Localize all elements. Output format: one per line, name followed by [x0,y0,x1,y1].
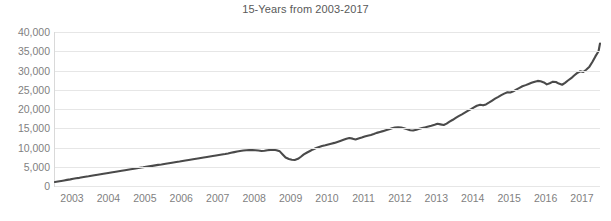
x-tick-label: 2010 [315,193,338,204]
x-tick-label: 2015 [497,193,520,204]
x-tick-label: 2012 [388,193,411,204]
x-tick-label: 2007 [206,193,229,204]
x-axis-labels: 2003200420052006200720082009201020112012… [0,0,611,221]
x-tick-label: 2003 [60,193,83,204]
x-tick-label: 2006 [170,193,193,204]
x-tick-label: 2016 [534,193,557,204]
x-tick-label: 2011 [352,193,375,204]
x-tick-label: 2013 [425,193,448,204]
x-tick-label: 2009 [279,193,302,204]
x-tick-label: 2008 [242,193,265,204]
x-tick-label: 2004 [97,193,120,204]
x-tick-label: 2014 [461,193,484,204]
x-tick-label: 2005 [133,193,156,204]
x-tick-label: 2017 [570,193,593,204]
line-chart: 15-Years from 2003-2017 05,00010,00015,0… [0,0,611,221]
